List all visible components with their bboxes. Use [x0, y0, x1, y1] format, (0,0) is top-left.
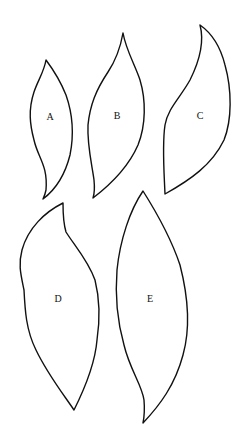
label-a: A [46, 111, 54, 122]
leaf-shape-e: E [116, 191, 187, 423]
leaf-shape-b: B [88, 33, 144, 198]
leaf-shape-d: D [20, 203, 99, 410]
label-d: D [54, 293, 61, 304]
label-b: B [114, 110, 121, 121]
leaf-shape-a: A [30, 60, 72, 199]
leaf-shape-c: C [163, 25, 230, 194]
figure: A B C D E [0, 0, 240, 441]
label-c: C [197, 110, 204, 121]
label-e: E [147, 293, 153, 304]
leaf-shapes-diagram: A B C D E [0, 0, 240, 441]
